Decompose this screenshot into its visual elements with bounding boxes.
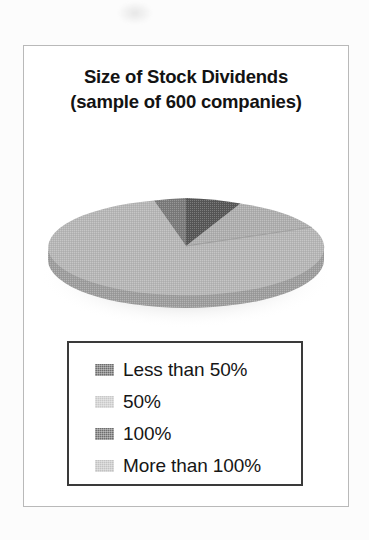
pie-chart: [24, 142, 348, 342]
legend-swatch-less-than-50: [95, 364, 114, 376]
legend-swatch-50: [95, 396, 114, 408]
legend-item-100: 100%: [95, 418, 301, 450]
figure-frame: Size of Stock Dividends (sample of 600 c…: [23, 45, 349, 507]
legend-label-more-than-100: More than 100%: [123, 455, 261, 477]
chart-title-line-2: (sample of 600 companies): [24, 89, 348, 114]
legend-swatch-100: [95, 428, 114, 440]
legend-label-less-than-50: Less than 50%: [123, 359, 247, 381]
legend-swatch-more-than-100: [95, 460, 114, 472]
legend-label-100: 100%: [123, 423, 171, 445]
pie-chart-svg: [24, 142, 348, 342]
chart-title-line-1: Size of Stock Dividends: [84, 66, 288, 87]
scan-artifact: [118, 2, 152, 24]
legend-item-more-than-100: More than 100%: [95, 450, 301, 482]
chart-legend: Less than 50% 50% 100% More than 100%: [67, 341, 303, 486]
legend-label-50: 50%: [123, 391, 161, 413]
pie-slices: [48, 198, 324, 295]
legend-item-less-than-50: Less than 50%: [95, 354, 301, 386]
legend-item-50: 50%: [95, 386, 301, 418]
figure-page: Size of Stock Dividends (sample of 600 c…: [0, 0, 369, 540]
chart-title: Size of Stock Dividends (sample of 600 c…: [24, 64, 348, 114]
